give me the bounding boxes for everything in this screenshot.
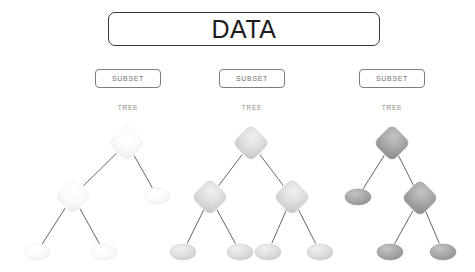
tree-node-decision [192, 179, 229, 216]
tree-node-leaf [144, 188, 170, 204]
tree-edge [395, 211, 413, 244]
data-box-label: DATA [212, 17, 277, 42]
tree-edge [83, 153, 116, 186]
tree-edge [187, 210, 203, 243]
tree-edge [219, 155, 242, 186]
subset-box-1: SUBSET [95, 69, 161, 88]
tree-edge [272, 210, 286, 243]
tree-nodes [24, 125, 456, 260]
tree-node-leaf [255, 244, 281, 260]
tree-node-leaf [91, 244, 117, 260]
tree-node-leaf [345, 189, 371, 205]
tree-caption-1: TREE [95, 105, 161, 112]
tree-caption-2: TREE [219, 105, 285, 112]
tree-node-leaf [307, 244, 333, 260]
tree-edge [363, 155, 384, 189]
tree-edges [42, 153, 439, 244]
tree-edge [134, 156, 152, 188]
tree-node-leaf [430, 244, 456, 260]
tree-node-decision [55, 178, 92, 215]
data-box: DATA [108, 12, 380, 46]
diagram-canvas: DATA SUBSET SUBSET SUBSET TREE TREE TREE [0, 0, 475, 272]
tree-edge [299, 210, 316, 244]
subset-label-3: SUBSET [376, 75, 408, 82]
tree-caption-3: TREE [359, 105, 425, 112]
tree-edge [217, 210, 236, 244]
tree-node-leaf [227, 244, 253, 260]
tree-node-decision [374, 125, 411, 162]
subset-label-2: SUBSET [236, 75, 268, 82]
subset-label-1: SUBSET [112, 75, 144, 82]
tree-edge [260, 155, 283, 186]
subset-box-3: SUBSET [359, 69, 425, 88]
tree-node-decision [109, 125, 146, 162]
tree-edge [399, 156, 414, 185]
tree-node-leaf [24, 244, 50, 260]
subset-box-2: SUBSET [219, 69, 285, 88]
tree-node-decision [402, 180, 439, 217]
tree-edge [42, 208, 65, 244]
tree-node-leaf [170, 244, 196, 260]
tree-node-leaf [377, 244, 403, 260]
tree-node-decision [274, 179, 311, 216]
tree-edge [426, 211, 440, 243]
tree-node-decision [233, 125, 270, 162]
tree-edge [80, 209, 99, 244]
